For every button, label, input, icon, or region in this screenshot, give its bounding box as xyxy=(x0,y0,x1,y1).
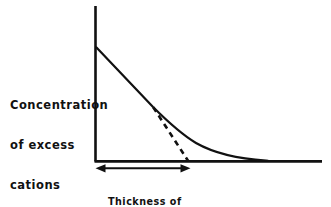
diffusion-layer-label: Thickness of diffusion layer xyxy=(108,173,194,207)
y-axis-label-line-2: of excess xyxy=(10,139,108,152)
arrow-head-right-icon xyxy=(181,164,191,172)
diffusion-layer-label-line-1: Thickness of xyxy=(108,196,194,207)
y-axis-label-line-3: cations xyxy=(10,179,108,192)
concentration-curve xyxy=(97,48,269,161)
figure-root: Concentration of excess cations Thicknes… xyxy=(0,0,331,207)
y-axis-label: Concentration of excess cations xyxy=(10,73,108,207)
y-axis-label-line-1: Concentration xyxy=(10,99,108,112)
